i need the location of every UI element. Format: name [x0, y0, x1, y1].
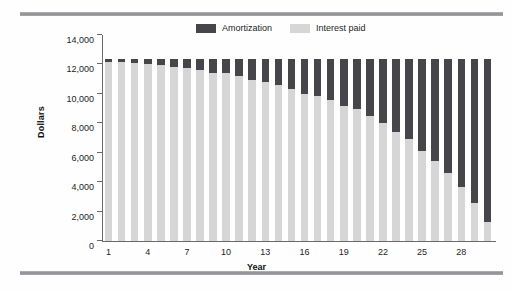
bar-segment-amortization [340, 59, 348, 106]
bar-segment-interest-paid [353, 109, 361, 241]
bar-segment-amortization [405, 59, 413, 140]
x-axis-tick-label: 19 [339, 247, 349, 257]
bar-year-16 [301, 59, 309, 241]
bar-segment-interest-paid [248, 80, 256, 241]
x-axis-line [102, 241, 496, 242]
bar-year-2 [118, 59, 126, 241]
y-axis-tick [97, 211, 102, 212]
bar-segment-interest-paid [340, 106, 348, 241]
bar-segment-amortization [118, 59, 126, 63]
x-axis-tick-label: 28 [456, 247, 466, 257]
bar-segment-interest-paid [379, 123, 387, 241]
bar-year-9 [209, 59, 217, 241]
bar-year-28 [458, 59, 466, 241]
legend-entry-amortization: Amortization [196, 24, 272, 33]
bar-segment-amortization [288, 59, 296, 89]
bar-segment-amortization [379, 59, 387, 123]
decorative-rule-top [20, 12, 503, 16]
bar-segment-interest-paid [405, 139, 413, 241]
bar-year-24 [405, 59, 413, 241]
bar-segment-interest-paid [131, 63, 139, 241]
bar-year-23 [392, 59, 400, 241]
bar-year-12 [248, 59, 256, 241]
bar-segment-amortization [431, 59, 439, 161]
bar-segment-amortization [301, 59, 309, 94]
bar-segment-interest-paid [222, 73, 230, 241]
bar-segment-interest-paid [170, 67, 178, 241]
x-axis-tick-label: 10 [221, 247, 231, 257]
bar-year-29 [471, 59, 479, 241]
bar-segment-interest-paid [301, 94, 309, 241]
bar-year-15 [288, 59, 296, 241]
y-axis-tick [97, 63, 102, 64]
bar-year-22 [379, 59, 387, 241]
legend-label-interest-paid: Interest paid [316, 24, 366, 33]
bar-year-25 [418, 59, 426, 241]
bar-year-18 [327, 59, 335, 241]
bar-year-6 [170, 59, 178, 241]
y-axis-tick [97, 93, 102, 94]
bar-segment-amortization [235, 59, 243, 77]
bar-segment-amortization [157, 59, 165, 66]
bar-segment-interest-paid [144, 64, 152, 241]
bar-segment-amortization [170, 59, 178, 67]
bar-segment-interest-paid [275, 85, 283, 241]
y-axis-tick [97, 240, 102, 241]
bar-segment-interest-paid [471, 203, 479, 241]
bar-segment-interest-paid [105, 62, 113, 242]
bar-segment-amortization [366, 59, 374, 116]
bar-segment-interest-paid [431, 161, 439, 241]
bar-segment-amortization [262, 59, 270, 83]
bar-segment-amortization [418, 59, 426, 152]
bar-segment-amortization [183, 59, 191, 69]
bar-year-4 [144, 59, 152, 241]
bar-segment-interest-paid [196, 70, 204, 241]
y-axis-tick [97, 181, 102, 182]
y-axis-tick [97, 34, 102, 35]
bar-segment-amortization [484, 59, 492, 222]
bar-segment-interest-paid [366, 116, 374, 241]
bar-year-26 [431, 59, 439, 241]
legend-swatch-amortization [196, 24, 216, 33]
bar-segment-interest-paid [157, 65, 165, 241]
bar-segment-amortization [144, 59, 152, 64]
x-axis-tick-label: 4 [145, 247, 150, 257]
bar-year-21 [366, 59, 374, 241]
legend-label-amortization: Amortization [222, 24, 272, 33]
bar-segment-amortization [471, 59, 479, 204]
bar-year-13 [262, 59, 270, 241]
bar-segment-interest-paid [484, 222, 492, 241]
bar-segment-amortization [248, 59, 256, 80]
bar-year-7 [183, 59, 191, 241]
bar-year-5 [157, 59, 165, 241]
bar-year-19 [340, 59, 348, 241]
chart-legend: Amortization Interest paid [196, 24, 366, 33]
bar-segment-amortization [327, 59, 335, 101]
x-axis-tick-label: 25 [417, 247, 427, 257]
y-axis-title: Dollars [36, 106, 46, 138]
x-axis-tick-label: 1 [106, 247, 111, 257]
bar-segment-amortization [392, 59, 400, 133]
bar-segment-interest-paid [209, 73, 217, 241]
bar-segment-interest-paid [183, 68, 191, 241]
bar-year-3 [131, 59, 139, 241]
bar-segment-interest-paid [444, 173, 452, 241]
bar-segment-amortization [105, 59, 113, 62]
bar-segment-amortization [196, 59, 204, 71]
bar-segment-amortization [444, 59, 452, 174]
bar-year-14 [275, 59, 283, 241]
y-axis-tick [97, 152, 102, 153]
bar-year-17 [314, 59, 322, 241]
bar-segment-amortization [353, 59, 361, 110]
bar-segment-amortization [314, 59, 322, 97]
x-axis-tick-label: 7 [184, 247, 189, 257]
bar-year-20 [353, 59, 361, 241]
bar-segment-interest-paid [458, 187, 466, 241]
bar-segment-amortization [458, 59, 466, 188]
bar-segment-interest-paid [418, 151, 426, 241]
x-axis-tick-label: 13 [260, 247, 270, 257]
bar-year-8 [196, 59, 204, 241]
legend-entry-interest-paid: Interest paid [290, 24, 366, 33]
x-axis-tick-label: 22 [378, 247, 388, 257]
bar-segment-interest-paid [288, 89, 296, 241]
